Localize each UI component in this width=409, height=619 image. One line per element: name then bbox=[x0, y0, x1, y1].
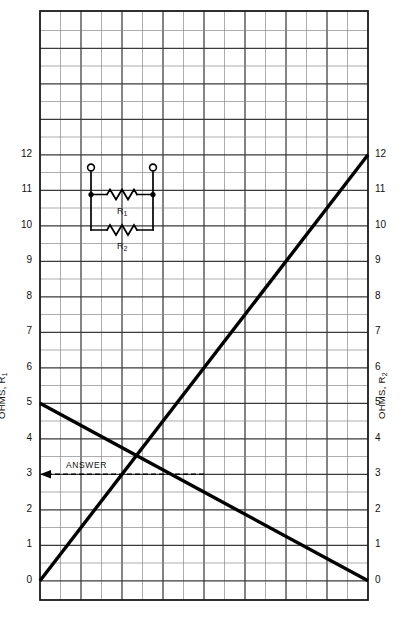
y-tick-label-right-9: 9 bbox=[375, 254, 395, 265]
y-tick-label-right-8: 8 bbox=[375, 290, 395, 301]
resistor-2-label-sub: 2 bbox=[124, 245, 128, 252]
resistor-2-label-text: R bbox=[117, 241, 124, 251]
y-tick-label-right-7: 7 bbox=[375, 325, 395, 336]
y-tick-label-left-0: 0 bbox=[12, 574, 32, 585]
y-tick-label-left-4: 4 bbox=[12, 432, 32, 443]
y-axis-title-right-sub: 2 bbox=[381, 372, 388, 376]
graph-container: 12 11 10 9 8 7 6 5 4 3 2 1 0 12 11 10 9 … bbox=[0, 0, 409, 619]
y-tick-label-left-9: 9 bbox=[12, 254, 32, 265]
y-tick-label-left-11: 11 bbox=[12, 183, 32, 194]
y-tick-label-right-1: 1 bbox=[375, 538, 395, 549]
y-tick-label-left-8: 8 bbox=[12, 290, 32, 301]
y-tick-label-right-11: 11 bbox=[375, 183, 395, 194]
y-axis-title-left: OHMS, R1 bbox=[0, 372, 7, 419]
y-tick-label-right-3: 3 bbox=[375, 467, 395, 478]
y-tick-label-left-7: 7 bbox=[12, 325, 32, 336]
y-tick-label-left-6: 6 bbox=[12, 361, 32, 372]
y-tick-label-right-0: 0 bbox=[375, 574, 395, 585]
resistor-1-label-sub: 1 bbox=[124, 210, 128, 217]
y-axis-title-left-sub: 1 bbox=[1, 372, 8, 376]
y-tick-label-right-12: 12 bbox=[375, 148, 395, 159]
y-tick-label-left-5: 5 bbox=[12, 396, 32, 407]
y-tick-label-left-2: 2 bbox=[12, 503, 32, 514]
resistor-2-label: R2 bbox=[117, 241, 127, 251]
y-tick-label-right-6: 6 bbox=[375, 361, 395, 372]
resistor-1-label-text: R bbox=[117, 206, 124, 216]
nomograph-plot bbox=[0, 0, 409, 619]
y-axis-title-right-text: OHMS, R bbox=[376, 376, 387, 419]
y-tick-label-right-2: 2 bbox=[375, 503, 395, 514]
y-tick-label-left-1: 1 bbox=[12, 538, 32, 549]
y-tick-label-right-10: 10 bbox=[375, 219, 395, 230]
answer-annotation-label: ANSWER bbox=[66, 460, 107, 470]
y-tick-label-left-10: 10 bbox=[12, 219, 32, 230]
y-axis-title-left-text: OHMS, R bbox=[0, 376, 7, 419]
y-tick-label-left-12: 12 bbox=[12, 148, 32, 159]
y-axis-title-right: OHMS, R2 bbox=[376, 372, 387, 419]
y-tick-label-left-3: 3 bbox=[12, 467, 32, 478]
resistor-1-label: R1 bbox=[117, 206, 127, 216]
y-tick-label-right-4: 4 bbox=[375, 432, 395, 443]
